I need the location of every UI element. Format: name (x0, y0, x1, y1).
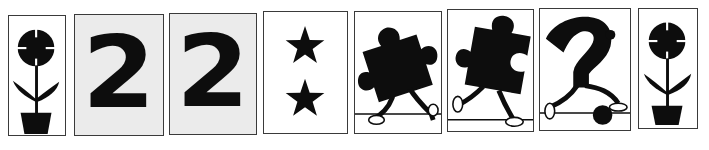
star-icon (286, 26, 325, 63)
card-digit-2-a: 2 (74, 14, 164, 136)
card-digit-2-b: 2 (169, 13, 257, 135)
stars-icon (264, 12, 347, 133)
card-puzzle-walking (354, 11, 442, 134)
flower-pot-icon (639, 9, 697, 128)
puzzle-piece-walker-icon (355, 12, 441, 133)
card-flower-pot-1 (8, 15, 66, 136)
star-icon (286, 79, 325, 116)
flower-pot-icon (9, 16, 65, 135)
ball-icon (593, 105, 613, 125)
card-question-walking (539, 8, 631, 131)
card-puzzle-running (447, 9, 534, 132)
card-two-stars (263, 11, 348, 134)
puzzle-piece-runner-icon (448, 10, 533, 131)
card-flower-pot-2 (638, 8, 698, 129)
question-mark-walker-icon (540, 9, 630, 130)
digit-two: 2 (176, 22, 249, 122)
digit-two: 2 (82, 23, 155, 123)
